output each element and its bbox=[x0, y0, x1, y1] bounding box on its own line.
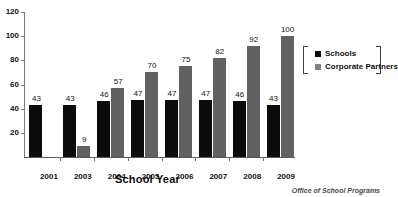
bar-corporate-partners bbox=[145, 72, 158, 157]
legend-label-schools: Schools bbox=[325, 50, 356, 58]
x-axis-tick bbox=[162, 157, 163, 161]
bar-corporate-partners bbox=[77, 146, 90, 157]
x-axis-tick bbox=[263, 157, 264, 161]
bar-corporate-partners bbox=[111, 88, 124, 157]
bar-schools bbox=[63, 105, 76, 157]
bar-schools bbox=[29, 105, 42, 157]
bar-corporate-partners bbox=[213, 58, 226, 157]
bar-corporate-partners bbox=[179, 66, 192, 157]
plot-area: 20406080100120 4343946574770477547824692… bbox=[24, 12, 295, 157]
y-axis-tick bbox=[21, 133, 25, 134]
bar-group: 439 bbox=[63, 12, 90, 157]
x-axis-tick bbox=[195, 157, 196, 161]
y-axis-tick bbox=[21, 36, 25, 37]
legend-bracket-right bbox=[376, 46, 381, 74]
bar-corporate-partners bbox=[247, 46, 260, 157]
bar-value-label: 75 bbox=[174, 56, 198, 64]
y-axis-tick-label: 40 bbox=[0, 105, 19, 113]
y-axis-tick-label: 80 bbox=[0, 56, 19, 64]
bar-group: 43 bbox=[29, 12, 56, 157]
bar-group: 43100 bbox=[267, 12, 294, 157]
bar-value-label: 9 bbox=[72, 136, 96, 144]
bar-value-label: 82 bbox=[208, 48, 232, 56]
y-axis-tick bbox=[21, 60, 25, 61]
bar-group: 4692 bbox=[233, 12, 260, 157]
y-axis-tick bbox=[21, 109, 25, 110]
x-axis-tick bbox=[128, 157, 129, 161]
bar-schools bbox=[165, 100, 178, 157]
bar-schools bbox=[97, 101, 110, 157]
bar-schools bbox=[131, 100, 144, 157]
bar-group: 4782 bbox=[199, 12, 226, 157]
legend-label-corporate-partners: Corporate Partners bbox=[325, 63, 398, 71]
y-axis-tick-label: 60 bbox=[0, 81, 19, 89]
legend-item-corporate-partners: Corporate Partners bbox=[315, 61, 377, 72]
y-axis-tick-label: 100 bbox=[0, 32, 19, 40]
y-axis-tick-label: 20 bbox=[0, 129, 19, 137]
bar-group: 4775 bbox=[165, 12, 192, 157]
schools-swatch-icon bbox=[315, 51, 321, 57]
legend-item-schools: Schools bbox=[315, 48, 377, 59]
bar-schools bbox=[267, 105, 280, 157]
y-axis-tick bbox=[21, 12, 25, 13]
chart-legend: Schools Corporate Partners bbox=[303, 46, 381, 72]
y-axis-tick bbox=[21, 85, 25, 86]
x-axis-title: School Year bbox=[0, 173, 295, 185]
bar-value-label: 43 bbox=[58, 95, 82, 103]
x-axis-tick bbox=[229, 157, 230, 161]
bar-corporate-partners bbox=[281, 36, 294, 157]
bar-value-label: 92 bbox=[242, 36, 266, 44]
bar-schools bbox=[233, 101, 246, 157]
y-axis-tick-label: 120 bbox=[0, 8, 19, 16]
bar-value-label: 70 bbox=[140, 62, 164, 70]
bar-value-label: 100 bbox=[276, 26, 300, 34]
x-axis-tick bbox=[94, 157, 95, 161]
legend-bracket-left bbox=[303, 46, 308, 74]
bar-group: 4770 bbox=[131, 12, 158, 157]
bar-value-label: 57 bbox=[106, 78, 130, 86]
bar-schools bbox=[199, 100, 212, 157]
bar-value-label: 43 bbox=[24, 95, 48, 103]
source-note: Office of School Programs bbox=[292, 187, 380, 194]
bar-group: 4657 bbox=[97, 12, 124, 157]
corporate-partners-swatch-icon bbox=[315, 64, 321, 70]
x-axis-line bbox=[24, 157, 295, 158]
x-axis-tick bbox=[60, 157, 61, 161]
